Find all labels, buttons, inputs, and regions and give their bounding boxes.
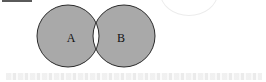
venn-diagram: A B — [0, 0, 266, 82]
set-a-label: A — [67, 31, 76, 45]
bleed-through-text — [6, 73, 262, 80]
set-b-label: B — [117, 31, 125, 45]
